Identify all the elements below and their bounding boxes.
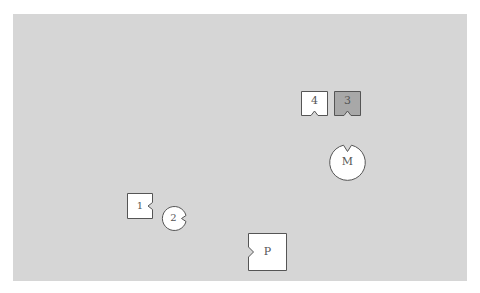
notched-circle-icon [329,144,366,181]
piece-p[interactable]: P [248,233,287,271]
piece-2[interactable]: 2 [162,206,187,231]
piece-1[interactable]: 1 [127,193,153,219]
game-board [13,14,467,281]
notched-square-icon [248,233,287,271]
piece-4[interactable]: 4 [301,91,328,116]
notched-circle-icon [162,206,187,231]
notched-square-icon [127,193,153,219]
notched-square-icon [334,91,361,116]
notched-square-icon [301,91,328,116]
piece-m[interactable]: M [329,144,366,181]
piece-3[interactable]: 3 [334,91,361,116]
